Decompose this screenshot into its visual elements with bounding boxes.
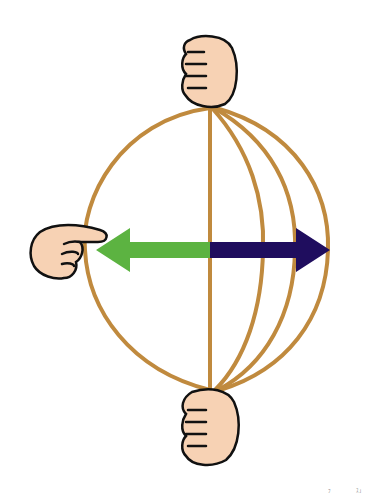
rope-loop-diagram — [0, 0, 369, 497]
corner-mark-2: ｽ｣ — [356, 486, 362, 493]
right-arrow — [210, 228, 330, 272]
corner-mark-1: ﾌ — [328, 486, 331, 493]
bottom-fist-icon — [182, 389, 238, 465]
left-arrow — [96, 228, 210, 272]
left-pointing-hand-icon — [31, 225, 107, 279]
top-fist-icon — [182, 36, 237, 107]
